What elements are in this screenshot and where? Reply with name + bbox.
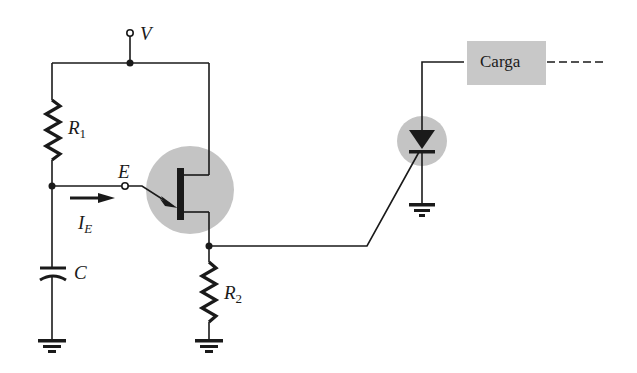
junction-emitter [49, 183, 56, 190]
schematic-canvas [0, 0, 637, 373]
ground-capacitor [38, 339, 66, 353]
junction-b1 [206, 243, 213, 250]
emitter-label-text: E [118, 161, 130, 182]
emitter-terminal [122, 183, 128, 189]
capacitor-label-text: C [74, 262, 87, 283]
r1-label: R1 [68, 118, 86, 140]
scr-cathode-bar [409, 150, 435, 154]
r1-label-main: R [68, 117, 80, 138]
ujt-base-bar [177, 168, 184, 220]
r2-label-sub: 2 [236, 291, 243, 306]
capacitor-label: C [74, 263, 87, 282]
current-label: IE [78, 213, 92, 235]
resistor-r1 [46, 100, 60, 160]
circuit-diagram: V R1 E IE C R2 Carga [0, 0, 637, 373]
emitter-label: E [118, 162, 130, 181]
ground-scr [409, 203, 435, 217]
current-arrow [98, 193, 115, 203]
load-label: Carga [480, 53, 520, 70]
r2-label: R2 [224, 283, 242, 305]
resistor-r2 [202, 262, 216, 322]
supply-label-text: V [140, 23, 152, 44]
junction-top [127, 60, 134, 67]
capacitor-plate-bottom [40, 276, 66, 280]
ground-r2 [195, 339, 223, 353]
ujt-highlight [146, 146, 234, 234]
gate-wire [209, 152, 419, 246]
current-label-sub: E [84, 221, 92, 236]
supply-label: V [140, 24, 152, 43]
r1-label-sub: 1 [80, 126, 87, 141]
supply-terminal [127, 30, 133, 36]
r2-label-main: R [224, 282, 236, 303]
